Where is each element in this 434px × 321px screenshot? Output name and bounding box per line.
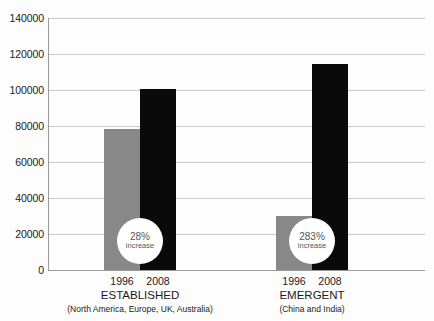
x-tick-label: 2008: [318, 275, 341, 287]
group-subtitle: (China and India): [279, 304, 344, 314]
x-tick-label: 1996: [110, 275, 133, 287]
increase-word: increase: [298, 242, 326, 250]
bar-chart: 28%increase283%increase 0200004000060000…: [0, 0, 434, 321]
increase-badge-emergent: 283%increase: [289, 218, 335, 264]
x-axis-labels: 19962008ESTABLISHED(North America, Europ…: [0, 0, 434, 321]
group-title: EMERGENT: [279, 289, 344, 301]
x-tick-label: 2008: [146, 275, 169, 287]
group-subtitle: (North America, Europe, UK, Australia): [67, 304, 213, 314]
group-title: ESTABLISHED: [101, 289, 179, 301]
x-tick-label: 1996: [282, 275, 305, 287]
increase-badge-established: 28%increase: [117, 218, 163, 264]
increase-word: increase: [126, 242, 154, 250]
